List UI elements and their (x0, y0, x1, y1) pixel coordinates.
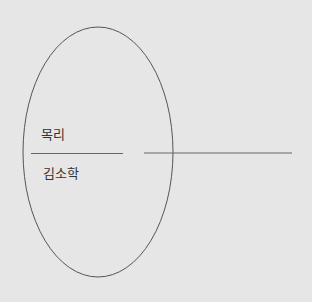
bottom-label: 김소학 (43, 163, 79, 182)
top-label: 목리 (41, 124, 65, 143)
ellipse-shape (23, 27, 173, 277)
diagram-canvas (0, 0, 312, 302)
